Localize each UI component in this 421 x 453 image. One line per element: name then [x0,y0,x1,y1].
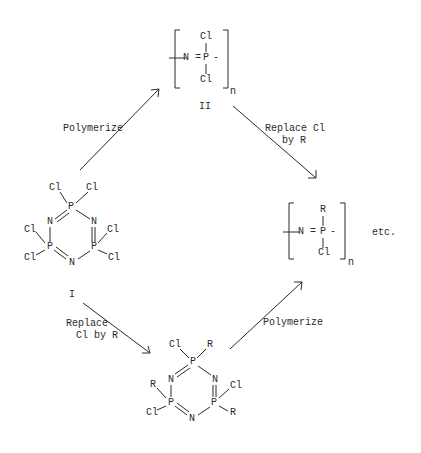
atom-cl: Cl [49,183,61,193]
atom-cl: Cl [86,183,98,193]
structure-label-i: I [69,290,75,300]
atom-p: P [47,242,53,252]
atom-n: N [212,375,218,385]
atom-n-double: N = [183,53,201,63]
label-replace-top-line2: by R [282,135,306,147]
atom-cl: Cl [24,225,36,235]
structure-label-ii: II [199,102,211,112]
subscript-n: n [230,87,236,97]
bonds-and-arrows [0,0,421,453]
label-polymerize-bottom: Polymerize [263,317,323,329]
atom-p: P [320,227,326,237]
atom-cl: Cl [200,75,212,85]
atom-cl: Cl [24,253,36,263]
atom-cl: Cl [108,253,120,263]
atom-cl: Cl [200,32,212,42]
etc-label: etc. [372,228,396,238]
bond-dash: - [213,53,219,63]
arrow-polymerize-bottom [230,282,302,349]
atom-p: P [168,398,174,408]
atom-cl: Cl [318,248,330,258]
atom-n: N [47,217,53,227]
label-replace-bottom-line2: Cl by R [76,330,118,342]
subscript-n: n [348,258,354,268]
atom-n: N [91,217,97,227]
label-replace-top-line1: Replace Cl [265,123,325,135]
atom-p: P [190,357,196,367]
atom-cl: Cl [230,381,242,391]
atom-p: P [68,202,74,212]
atom-r: R [207,340,213,350]
atom-n-double: N = [298,227,316,237]
atom-n: N [69,258,75,268]
atom-cl: Cl [146,408,158,418]
reaction-scheme-canvas: Cl N = P - Cl n II R N = P - Cl n etc. C… [0,0,421,453]
atom-n: N [168,375,174,385]
label-replace-bottom-line1: Replace [66,318,108,330]
atom-cl: Cl [169,340,181,350]
label-polymerize-top: Polymerize [63,123,123,135]
atom-r: R [230,408,236,418]
atom-r: R [150,380,156,390]
bond-dash: - [330,227,336,237]
atom-r: R [320,205,326,215]
atom-cl: Cl [107,225,119,235]
atom-n: N [189,414,195,424]
atom-p: P [211,398,217,408]
atom-p: P [91,242,97,252]
atom-p: P [203,53,209,63]
